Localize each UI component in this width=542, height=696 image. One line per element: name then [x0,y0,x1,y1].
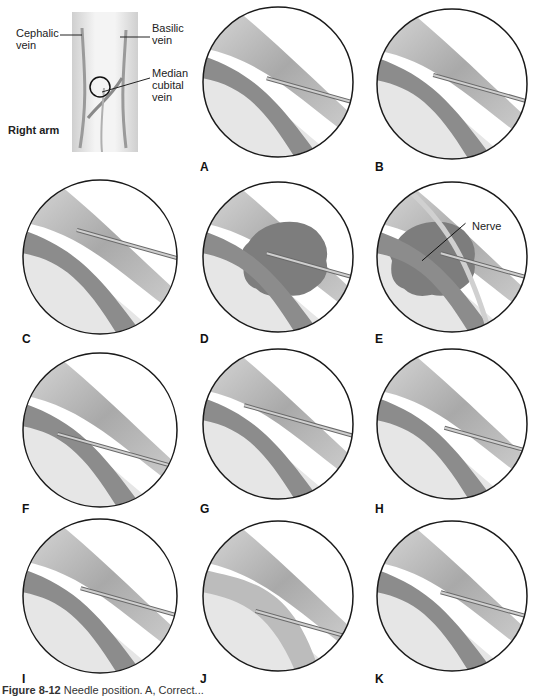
panel-label-c: C [22,332,31,346]
panel-j [201,519,355,673]
right-arm-label: Right arm [8,124,59,136]
nerve-label: Nerve [472,220,501,232]
label-line: Cephalic [16,27,59,39]
panel-a [201,5,355,159]
cephalic-vein-label: Cephalic vein [16,27,59,51]
panel-label-b: B [375,160,384,174]
panel-g [201,347,355,501]
panel-b [375,7,529,161]
label-line: vein [152,91,188,103]
panel-f [21,351,179,509]
panel-label-k: K [375,672,384,686]
basilic-vein-label: Basilic vein [152,22,184,46]
panel-k [375,519,529,673]
panel-label-e: E [375,332,383,346]
label-line: Basilic [152,22,184,34]
label-line: vein [16,39,59,51]
arm-illustration [60,8,150,158]
panel-c [21,178,179,336]
panel-e [375,180,529,334]
caption-prefix: Figure 8-12 [2,684,61,696]
label-line: Median [152,67,188,79]
figure-caption: Figure 8-12 Needle position. A, Correct.… [2,684,204,696]
median-cubital-vein-label: Median cubital vein [152,67,188,103]
panel-h [375,347,529,501]
panel-label-f: F [22,502,29,516]
panel-label-d: D [200,332,209,346]
caption-text: Needle position. A, Correct... [61,684,204,696]
panel-label-g: G [200,502,209,516]
label-line: vein [152,34,184,46]
panel-label-a: A [200,160,209,174]
panel-label-h: H [375,502,384,516]
label-line: cubital [152,79,188,91]
panel-i [21,517,179,675]
panel-d [201,180,355,334]
